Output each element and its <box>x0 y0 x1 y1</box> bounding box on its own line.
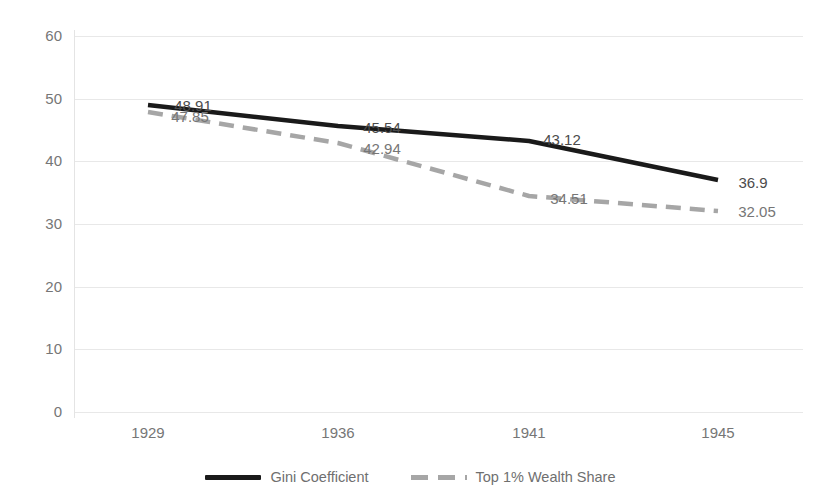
x-axis-ticks: 1929 1936 1941 1945 <box>75 424 803 446</box>
legend-item-gini-coefficient[interactable]: Gini Coefficient <box>205 469 368 485</box>
data-label-top1-1936: 42.94 <box>363 140 401 157</box>
legend-label-top-1-wealth-share: Top 1% Wealth Share <box>476 469 616 485</box>
x-tick-1941: 1941 <box>512 424 545 441</box>
x-tick-1936: 1936 <box>321 424 354 441</box>
data-label-gini-1941: 43.12 <box>543 131 581 148</box>
data-label-gini-1945: 36.9 <box>738 174 767 191</box>
x-tick-1929: 1929 <box>131 424 164 441</box>
data-label-top1-1945: 32.05 <box>738 203 776 220</box>
legend-label-gini-coefficient: Gini Coefficient <box>270 469 368 485</box>
x-tick-1945: 1945 <box>701 424 734 441</box>
data-label-gini-1936: 45.54 <box>363 119 401 136</box>
legend-item-top-1-wealth-share[interactable]: Top 1% Wealth Share <box>411 469 616 485</box>
data-label-top1-1929: 47.85 <box>171 108 209 125</box>
chart-legend: Gini Coefficient Top 1% Wealth Share <box>0 462 821 492</box>
dashed-line-swatch-icon <box>411 475 467 480</box>
solid-line-swatch-icon <box>205 475 261 480</box>
chart-container: 60 50 40 30 20 10 0 48.91 45.54 43.12 36… <box>0 0 821 502</box>
data-label-top1-1941: 34.51 <box>550 190 588 207</box>
